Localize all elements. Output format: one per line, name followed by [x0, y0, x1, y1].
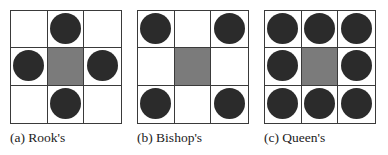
empty-cell: [84, 86, 121, 123]
neighbor-grid: [10, 10, 122, 124]
neighbor-cell: [211, 11, 248, 48]
neighbor-dot-icon: [341, 88, 372, 119]
empty-cell: [84, 11, 121, 48]
neighbor-cell: [338, 48, 375, 85]
neighbor-dot-icon: [341, 50, 372, 81]
neighbor-dot-icon: [87, 50, 118, 81]
rook-contiguity-panel: (a) Rook's: [10, 10, 122, 124]
empty-cell: [175, 86, 212, 123]
bishop-contiguity-panel: (b) Bishop's: [137, 10, 249, 124]
neighbor-cell: [302, 86, 339, 123]
neighbor-cell: [48, 86, 85, 123]
neighbor-dot-icon: [304, 88, 335, 119]
neighbor-dot-icon: [13, 50, 44, 81]
neighbor-cell: [48, 11, 85, 48]
neighbor-cell: [138, 86, 175, 123]
neighbor-dot-icon: [267, 50, 298, 81]
neighbor-cell: [11, 48, 48, 85]
neighbor-cell: [265, 86, 302, 123]
empty-cell: [11, 86, 48, 123]
neighbor-cell: [338, 86, 375, 123]
neighbor-dot-icon: [267, 13, 298, 44]
neighbor-dot-icon: [140, 13, 171, 44]
focal-cell: [175, 48, 212, 85]
neighbor-dot-icon: [140, 88, 171, 119]
neighbor-dot-icon: [214, 88, 245, 119]
neighbor-grid: [264, 10, 376, 124]
neighbor-cell: [302, 11, 339, 48]
focal-cell: [302, 48, 339, 85]
neighbor-grid: [137, 10, 249, 124]
neighbor-cell: [211, 86, 248, 123]
neighbor-cell: [84, 48, 121, 85]
neighbor-dot-icon: [214, 13, 245, 44]
neighbor-dot-icon: [341, 13, 372, 44]
panel-caption: (b) Bishop's: [137, 130, 202, 146]
panel-caption: (c) Queen's: [264, 130, 325, 146]
focal-cell: [48, 48, 85, 85]
empty-cell: [175, 11, 212, 48]
empty-cell: [138, 48, 175, 85]
queen-contiguity-panel: (c) Queen's: [264, 10, 376, 124]
empty-cell: [11, 11, 48, 48]
neighbor-dot-icon: [304, 13, 335, 44]
neighbor-dot-icon: [50, 13, 81, 44]
neighbor-cell: [265, 48, 302, 85]
neighbor-dot-icon: [50, 88, 81, 119]
neighbor-cell: [138, 11, 175, 48]
neighbor-cell: [338, 11, 375, 48]
empty-cell: [211, 48, 248, 85]
panel-caption: (a) Rook's: [10, 130, 65, 146]
neighbor-cell: [265, 11, 302, 48]
neighbor-dot-icon: [267, 88, 298, 119]
